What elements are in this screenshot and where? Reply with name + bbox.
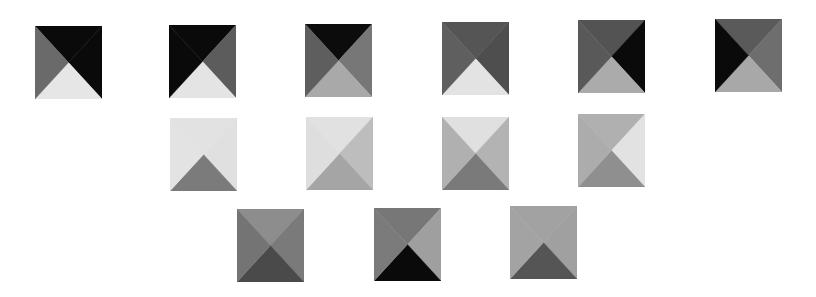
tile-r3-c3	[510, 206, 577, 279]
quad-triangle-icon	[374, 208, 441, 281]
tile-r2-c2	[306, 117, 373, 190]
tile-r3-c2	[374, 208, 441, 281]
quad-triangle-icon	[170, 118, 237, 191]
quad-triangle-icon	[305, 24, 372, 97]
quad-triangle-icon	[442, 22, 509, 95]
quad-triangle-icon	[35, 26, 102, 99]
quad-triangle-icon	[715, 19, 782, 92]
quad-triangle-icon	[510, 206, 577, 279]
tile-r2-c1	[170, 118, 237, 191]
quad-triangle-icon	[578, 114, 645, 187]
quad-triangle-icon	[306, 117, 373, 190]
quad-triangle-icon	[578, 20, 645, 93]
quad-triangle-icon	[169, 25, 236, 98]
tile-r1-c6	[715, 19, 782, 92]
tile-r3-c1	[237, 209, 304, 282]
tile-r1-c1	[35, 26, 102, 99]
quad-triangle-icon	[237, 209, 304, 282]
tile-r2-c4	[578, 114, 645, 187]
tile-r1-c3	[305, 24, 372, 97]
tile-r1-c2	[169, 25, 236, 98]
quad-triangle-icon	[442, 117, 509, 190]
tile-r1-c5	[578, 20, 645, 93]
tile-r1-c4	[442, 22, 509, 95]
tile-r2-c3	[442, 117, 509, 190]
